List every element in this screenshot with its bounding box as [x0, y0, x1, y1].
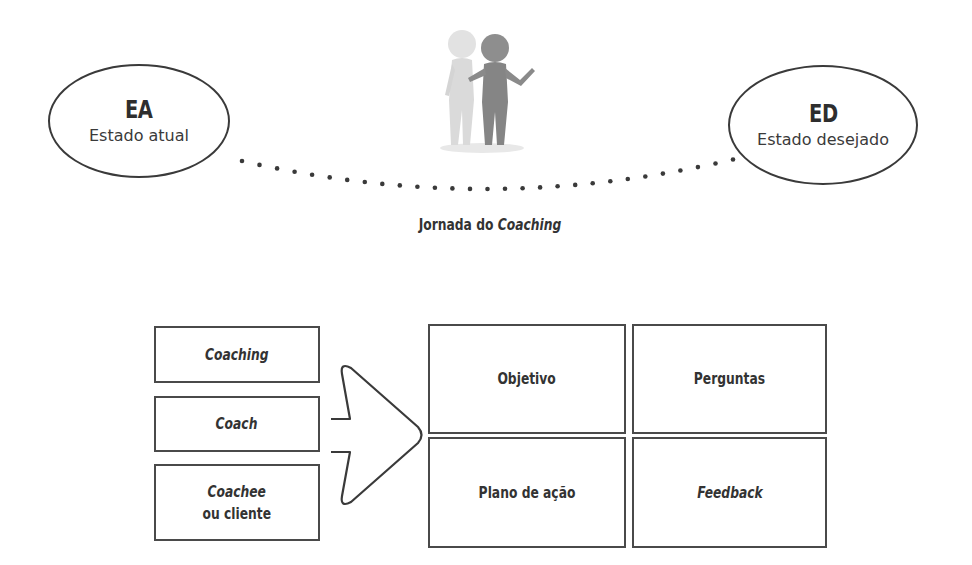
input-box-coaching: Coaching	[154, 326, 320, 383]
input-box-label: Coachee	[208, 481, 267, 503]
grid-cell-label: Objetivo	[498, 368, 556, 390]
input-box-label: Coach	[216, 413, 258, 435]
grid-cell-label: Plano de ação	[479, 482, 576, 504]
grid-cell-label: Feedback	[697, 482, 763, 504]
input-box-label: Coaching	[205, 344, 269, 366]
coaching-figures-icon	[440, 30, 535, 153]
desired-state-ellipse: ED Estado desejado	[728, 65, 918, 185]
arrow-icon	[331, 366, 422, 504]
current-state-ellipse: EA Estado atual	[48, 64, 230, 178]
grid-cell-perguntas: Perguntas	[632, 324, 827, 434]
input-box-sublabel: ou cliente	[203, 503, 272, 525]
grid-cell-objetivo: Objetivo	[428, 324, 626, 434]
grid-cell-feedback: Feedback	[632, 437, 827, 548]
desired-state-code: ED	[809, 100, 838, 128]
journey-caption: Jornada do Coaching	[350, 216, 630, 234]
caption-plain: Jornada do	[419, 216, 498, 234]
current-state-label: Estado atual	[89, 126, 189, 146]
current-state-code: EA	[125, 96, 153, 124]
desired-state-label: Estado desejado	[757, 130, 889, 150]
grid-cell-plano-de-acao: Plano de ação	[428, 437, 626, 548]
input-box-coach: Coach	[154, 396, 320, 452]
input-box-coachee: Coachee ou cliente	[154, 464, 320, 541]
caption-italic: Coaching	[498, 216, 562, 234]
grid-cell-label: Perguntas	[694, 368, 765, 390]
dotted-journey-path	[240, 157, 736, 191]
